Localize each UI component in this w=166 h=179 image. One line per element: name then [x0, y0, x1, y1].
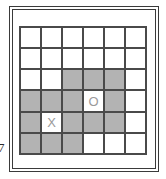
grid-cell[interactable]: [63, 91, 84, 112]
edge-glyph: 7: [0, 139, 10, 157]
grid-cell[interactable]: [21, 49, 42, 70]
grid-cell[interactable]: [126, 134, 147, 155]
grid-cell[interactable]: [105, 28, 126, 49]
grid-cell[interactable]: [126, 91, 147, 112]
grid-cell[interactable]: [63, 113, 84, 134]
cell-marker-x: X: [47, 116, 56, 129]
grid-cell[interactable]: [21, 28, 42, 49]
cell-marker-o: O: [88, 95, 98, 108]
grid-cell[interactable]: [63, 70, 84, 91]
grid-cell[interactable]: [84, 70, 105, 91]
grid-cell[interactable]: [105, 113, 126, 134]
grid-cell[interactable]: [84, 28, 105, 49]
grid-cell[interactable]: O: [84, 91, 105, 112]
figure-root: 7 OX: [0, 0, 166, 179]
grid-cell[interactable]: [105, 49, 126, 70]
grid-cell[interactable]: [21, 70, 42, 91]
grid-cell[interactable]: X: [42, 113, 63, 134]
grid-cell[interactable]: [21, 134, 42, 155]
grid: OX: [19, 26, 147, 155]
grid-cell[interactable]: [84, 49, 105, 70]
grid-cell[interactable]: [42, 134, 63, 155]
grid-cell[interactable]: [126, 70, 147, 91]
grid-cell[interactable]: [42, 49, 63, 70]
grid-cell[interactable]: [21, 113, 42, 134]
grid-cell[interactable]: [84, 113, 105, 134]
grid-cell[interactable]: [42, 70, 63, 91]
grid-cell[interactable]: [126, 28, 147, 49]
grid-cell[interactable]: [63, 28, 84, 49]
grid-cell[interactable]: [126, 49, 147, 70]
grid-cell[interactable]: [105, 70, 126, 91]
grid-cell[interactable]: [42, 28, 63, 49]
grid-cell[interactable]: [42, 91, 63, 112]
grid-cell[interactable]: [105, 91, 126, 112]
grid-cell[interactable]: [63, 49, 84, 70]
grid-cell[interactable]: [105, 134, 126, 155]
grid-cell[interactable]: [21, 91, 42, 112]
grid-cell[interactable]: [126, 113, 147, 134]
grid-cell[interactable]: [63, 134, 84, 155]
grid-cell[interactable]: [84, 134, 105, 155]
